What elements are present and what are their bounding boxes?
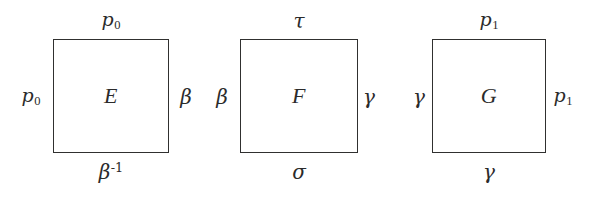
square-g-center-letter: G <box>481 85 497 107</box>
square-e-top-edge-label: p0 <box>102 10 121 31</box>
math-diagram-canvas: p0 p0 β β-1 E τ β γ σ F p1 γ p1 γ G <box>0 0 597 198</box>
subscript-0: 0 <box>114 18 120 32</box>
square-g-left-edge-label: γ <box>413 87 425 107</box>
square-f-right-edge-label: γ <box>363 87 375 107</box>
subscript-1: 1 <box>492 18 498 32</box>
square-e-right-edge-label: β <box>180 87 192 107</box>
square-f-center-letter: F <box>292 85 306 107</box>
square-f-bottom-edge-label: σ <box>292 162 306 182</box>
subscript-0: 0 <box>34 94 40 108</box>
superscript-minus-one: -1 <box>111 160 123 175</box>
beta-glyph: β <box>99 160 111 184</box>
square-e-left-edge-label: p0 <box>22 86 41 107</box>
square-f-top-edge-label: τ <box>293 11 304 31</box>
square-e-center-letter: E <box>104 85 118 107</box>
square-g-right-edge-label: p1 <box>554 86 573 107</box>
square-g-bottom-edge-label: γ <box>483 162 495 182</box>
subscript-1: 1 <box>566 94 572 108</box>
square-g-top-edge-label: p1 <box>480 10 499 31</box>
square-e-bottom-edge-label: β-1 <box>99 162 124 182</box>
square-f-left-edge-label: β <box>216 87 228 107</box>
